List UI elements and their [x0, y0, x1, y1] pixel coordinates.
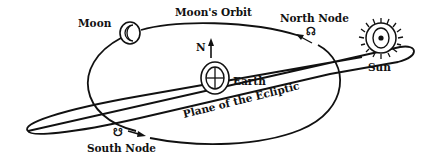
moon-label: Moon: [78, 17, 112, 29]
south-node-arrow-icon: [128, 131, 146, 137]
north-node-label: North Node: [280, 12, 349, 24]
earth-label: Earth: [233, 75, 266, 87]
earth-cross-icon: [201, 62, 229, 94]
moons-orbit-label: Moon's Orbit: [175, 6, 252, 18]
moon-orbit: [141, 23, 300, 36]
north-node-symbol: ☊: [306, 25, 316, 37]
sun-rays-icon: [359, 18, 403, 59]
crescent-moon-icon: [120, 22, 140, 44]
south-node-symbol: ☋: [113, 126, 123, 138]
moon-orbit-left: [88, 38, 136, 131]
north-arrow-icon: [208, 38, 214, 58]
north-label: N: [196, 41, 206, 53]
south-node-label: South Node: [87, 142, 156, 154]
sun-label: Sun: [368, 61, 391, 73]
moon-orbit-diagram: ☊ ☋ Moon Moon's Orbit North Node N Earth…: [0, 0, 428, 164]
